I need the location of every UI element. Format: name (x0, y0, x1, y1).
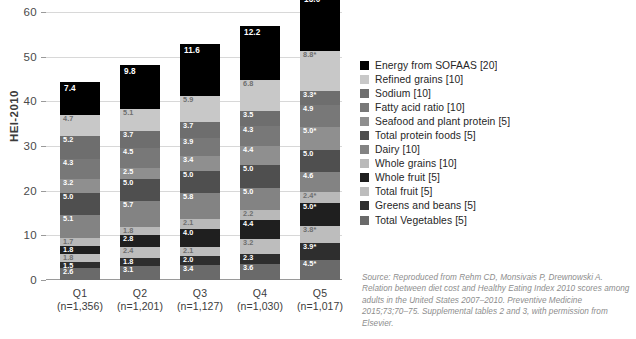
legend-item[interactable]: Refined grains [10] (360, 72, 636, 86)
bar-segment[interactable]: 4.6 (300, 172, 340, 193)
bar-segment[interactable]: 5.0 (60, 193, 100, 215)
bar-segment[interactable]: 3.9 (180, 138, 220, 155)
bar-segment[interactable]: 3.1 (120, 266, 160, 280)
segment-value-label: 3.3* (303, 91, 316, 99)
x-axis-sample-size: (n=1,017) (270, 300, 370, 313)
bar-segment[interactable]: 4.3 (240, 126, 280, 145)
bar-segment[interactable]: 4.3 (60, 159, 100, 178)
bar-segment[interactable]: 6.8 (240, 80, 280, 110)
bar-segment[interactable]: 4.4 (240, 146, 280, 166)
segment-value-label: 5.1 (123, 109, 133, 117)
bar-segment[interactable]: 8.8* (300, 51, 340, 90)
bar-segment[interactable]: 3.2 (240, 239, 280, 253)
segment-value-label: 4.3 (243, 126, 253, 134)
bar-segment[interactable]: 5.7 (120, 201, 160, 226)
legend-item[interactable]: Total protein foods [5] (360, 128, 636, 142)
segment-value-label: 4.5 (123, 148, 133, 156)
segment-value-label: 2.5 (123, 168, 133, 176)
segment-value-label: 4.6 (303, 172, 313, 180)
bar-segment[interactable]: 3.5 (240, 111, 280, 127)
segment-value-label: 3.2 (243, 239, 253, 247)
bar-segment[interactable]: 4.5 (120, 148, 160, 168)
bar-segment[interactable]: 2.6 (60, 268, 100, 280)
bar-segment[interactable]: 5.0* (300, 203, 340, 225)
legend-item[interactable]: Dairy [10] (360, 143, 636, 157)
bar-segment[interactable]: 3.4 (180, 265, 220, 280)
segment-value-label: 2.1 (183, 247, 193, 255)
bar-segment[interactable]: 5.0* (300, 127, 340, 149)
legend-item[interactable]: Fatty acid ratio [10] (360, 100, 636, 114)
legend-item[interactable]: Energy from SOFAAS [20] (360, 58, 636, 72)
bar-column[interactable]: 13.0*8.8*3.3*4.95.0*5.04.62.4*5.0*3.8*3.… (300, 0, 340, 280)
bar-segment[interactable]: 3.7 (180, 122, 220, 139)
x-axis-label: Q5(n=1,017) (270, 280, 370, 312)
legend-swatch (360, 187, 369, 196)
legend-label: Whole grains [10] (375, 158, 457, 169)
bar-segment[interactable]: 5.0 (180, 171, 220, 193)
segment-value-label: 4.9 (303, 105, 313, 113)
bar-segment[interactable]: 5.8 (180, 193, 220, 219)
segment-value-label: 2.8 (123, 235, 133, 243)
bar-segment[interactable]: 4.9 (300, 105, 340, 127)
bar-segment[interactable]: 3.3* (300, 91, 340, 106)
bar-segment[interactable]: 5.0 (240, 165, 280, 187)
bar-segment[interactable]: 7.4 (60, 82, 100, 115)
bar-segment[interactable]: 3.6 (240, 264, 280, 280)
bar-segment[interactable]: 5.9 (180, 96, 220, 122)
segment-value-label: 4.0 (183, 229, 193, 237)
segment-value-label: 2.4* (303, 192, 316, 200)
legend-item[interactable]: Sodium [10] (360, 86, 636, 100)
segment-value-label: 5.0 (63, 193, 73, 201)
bar-segment[interactable]: 5.2 (60, 136, 100, 159)
legend-item[interactable]: Seafood and plant protein [5] (360, 114, 636, 128)
legend-item[interactable]: Total Vegetables [5] (360, 213, 636, 227)
bar-segment[interactable]: 3.9* (300, 243, 340, 260)
bar-segment[interactable]: 4.5* (300, 260, 340, 280)
bar-segment[interactable]: 5.0 (300, 150, 340, 172)
stacked-bar-chart: HEI-2010 0102030405060 7.44.75.24.33.25.… (0, 0, 636, 339)
bar-segment[interactable]: 3.4 (180, 156, 220, 171)
bar-column[interactable]: 11.65.93.73.93.45.05.82.14.02.12.03.4Q3(… (180, 44, 220, 280)
segment-value-label: 5.9 (183, 96, 193, 104)
bar-column[interactable]: 12.26.83.54.34.45.05.02.24.43.22.33.6Q4(… (240, 26, 280, 280)
bar-segment[interactable]: 5.1 (120, 109, 160, 132)
segment-value-label: 4.4 (243, 146, 253, 154)
bar-segment[interactable]: 4.7 (60, 115, 100, 136)
bar-segment[interactable]: 13.0* (300, 0, 340, 51)
segment-value-label: 5.0* (303, 203, 316, 211)
bar-segment[interactable]: 4.0 (180, 229, 220, 247)
segment-value-label: 9.8 (124, 67, 136, 76)
legend-swatch (360, 61, 369, 70)
bar-segment[interactable]: 3.2 (60, 179, 100, 193)
segment-value-label: 5.0 (243, 188, 253, 196)
bar-segment[interactable]: 3.7 (120, 131, 160, 148)
bar-segment[interactable]: 5.1 (60, 215, 100, 238)
legend-label: Total Vegetables [5] (375, 215, 467, 226)
legend-swatch (360, 159, 369, 168)
bar-column[interactable]: 7.44.75.24.33.25.05.11.71.81.81.52.6Q1(n… (60, 82, 100, 280)
legend-swatch (360, 89, 369, 98)
legend-item[interactable]: Whole grains [10] (360, 157, 636, 171)
segment-value-label: 4.5* (303, 260, 316, 268)
segment-value-label: 3.6 (243, 264, 253, 272)
legend-swatch (360, 173, 369, 182)
bar-segment[interactable]: 12.2 (240, 26, 280, 80)
legend-item[interactable]: Greens and beans [5] (360, 199, 636, 213)
legend-item[interactable]: Whole fruit [5] (360, 171, 636, 185)
segment-value-label: 5.2 (63, 136, 73, 144)
segment-value-label: 2.2 (243, 210, 253, 218)
bar-segment[interactable]: 5.0 (240, 188, 280, 210)
bar-segment[interactable]: 5.0 (120, 179, 160, 201)
y-axis-title: HEI-2010 (8, 90, 20, 142)
bar-column[interactable]: 9.85.13.74.52.55.05.71.82.82.41.83.1Q2(n… (120, 65, 160, 280)
bar-segment[interactable]: 4.4 (240, 220, 280, 240)
source-note: Source: Reproduced from Rehm CD, Monsiva… (362, 272, 630, 329)
y-tick-label: 60 (24, 6, 37, 18)
bar-segment[interactable]: 3.8* (300, 226, 340, 243)
legend-swatch (360, 131, 369, 140)
legend-swatch (360, 145, 369, 154)
bar-segment[interactable]: 11.6 (180, 44, 220, 96)
legend-item[interactable]: Total fruit [5] (360, 185, 636, 199)
segment-value-label: 2.3 (243, 254, 253, 262)
bar-segment[interactable]: 9.8 (120, 65, 160, 109)
